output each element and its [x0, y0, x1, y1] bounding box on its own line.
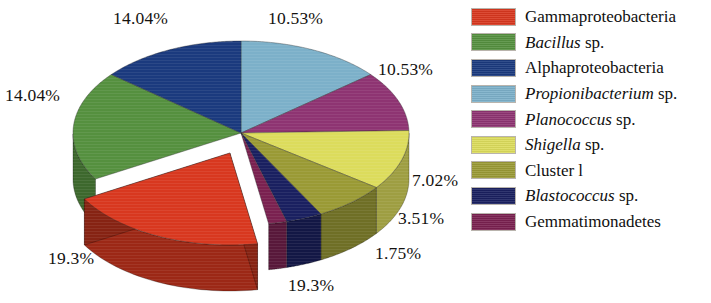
pie-slice-percentage-label: 10.53% — [268, 8, 323, 29]
legend-color-swatch — [471, 110, 516, 128]
pie-chart-figure: 14.04%10.53%10.53%14.04%7.02%3.51%1.75%1… — [0, 0, 711, 303]
legend-color-swatch — [471, 213, 516, 231]
legend-color-swatch — [471, 8, 516, 26]
legend-item-label: Bacillus sp. — [525, 34, 604, 51]
legend-item[interactable]: Alphaproteobacteria — [471, 55, 711, 81]
legend-item[interactable]: Planococcus sp. — [471, 106, 711, 132]
legend-item[interactable]: Gemmatimonadetes — [471, 209, 711, 235]
legend-color-swatch — [471, 59, 516, 77]
legend-item-label: Cluster l — [525, 162, 583, 179]
legend-item[interactable]: Gammaproteobacteria — [471, 4, 711, 30]
legend-color-swatch — [471, 85, 516, 103]
pie-slice-percentage-label: 14.04% — [113, 8, 168, 29]
pie-slice-percentage-label: 7.02% — [412, 170, 458, 191]
pie-slice-percentage-label: 3.51% — [398, 208, 444, 229]
legend-item[interactable]: Bacillus sp. — [471, 30, 711, 56]
legend-item-label: Blastococcus sp. — [525, 187, 638, 204]
pie-slice-percentage-label: 19.3% — [288, 275, 334, 296]
legend-item-label: Gammaproteobacteria — [525, 8, 676, 25]
legend-item-label: Planococcus sp. — [525, 111, 635, 128]
legend-color-swatch — [471, 33, 516, 51]
legend-item[interactable]: Cluster l — [471, 158, 711, 184]
pie-slice-percentage-label: 1.75% — [375, 243, 421, 264]
legend-item[interactable]: Propionibacterium sp. — [471, 81, 711, 107]
legend-item-label: Alphaproteobacteria — [525, 59, 664, 76]
chart-legend: GammaproteobacteriaBacillus sp.Alphaprot… — [471, 4, 711, 234]
legend-color-swatch — [471, 161, 516, 179]
pie-slice-percentage-label: 14.04% — [5, 85, 60, 106]
legend-item[interactable]: Shigella sp. — [471, 132, 711, 158]
legend-item-label: Gemmatimonadetes — [525, 213, 661, 230]
legend-color-swatch — [471, 187, 516, 205]
legend-color-swatch — [471, 136, 516, 154]
legend-item[interactable]: Blastococcus sp. — [471, 183, 711, 209]
legend-item-label: Shigella sp. — [525, 136, 604, 153]
legend-item-label: Propionibacterium sp. — [525, 85, 677, 102]
pie-slice-percentage-label: 10.53% — [378, 59, 433, 80]
pie-slice-percentage-label: 19.3% — [48, 248, 94, 269]
